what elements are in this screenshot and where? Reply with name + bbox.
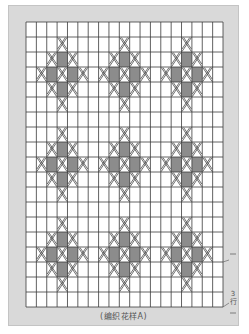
filled-cell [130, 67, 140, 82]
filled-cell [57, 172, 67, 187]
filled-cell [119, 262, 129, 277]
filled-cell [171, 247, 181, 262]
filled-cell [57, 262, 67, 277]
row-count-number: 3 [228, 290, 238, 298]
filled-cell [57, 232, 67, 247]
filled-cell [192, 67, 202, 82]
filled-cell [119, 172, 129, 187]
filled-cell [192, 247, 202, 262]
bracket-connector-top [223, 260, 229, 262]
filled-cell [119, 232, 129, 247]
filled-cell [57, 82, 67, 97]
chart-caption: (编织花样A) [8, 310, 239, 321]
filled-cell [182, 142, 192, 157]
filled-cell [182, 172, 192, 187]
filled-cell [171, 67, 181, 82]
filled-cell [119, 142, 129, 157]
filled-cell [182, 232, 192, 247]
row-count-unit: 行 [228, 298, 238, 306]
filled-cell [47, 157, 57, 172]
filled-cell [182, 82, 192, 97]
filled-cell [182, 52, 192, 67]
row-count-annotation: 3 行 [228, 290, 238, 306]
filled-cell [57, 52, 67, 67]
filled-cell [192, 157, 202, 172]
filled-cell [130, 157, 140, 172]
filled-cell [57, 142, 67, 157]
knitting-chart-grid [0, 0, 249, 334]
filled-cell [171, 157, 181, 172]
filled-cell [67, 247, 77, 262]
filled-cell [130, 247, 140, 262]
filled-cell [119, 52, 129, 67]
filled-cell [119, 82, 129, 97]
filled-cell [47, 67, 57, 82]
filled-cell [67, 67, 77, 82]
filled-cell [109, 247, 119, 262]
filled-cell [67, 157, 77, 172]
filled-cell [47, 247, 57, 262]
filled-cell [182, 262, 192, 277]
filled-cell [109, 67, 119, 82]
filled-cell [109, 157, 119, 172]
